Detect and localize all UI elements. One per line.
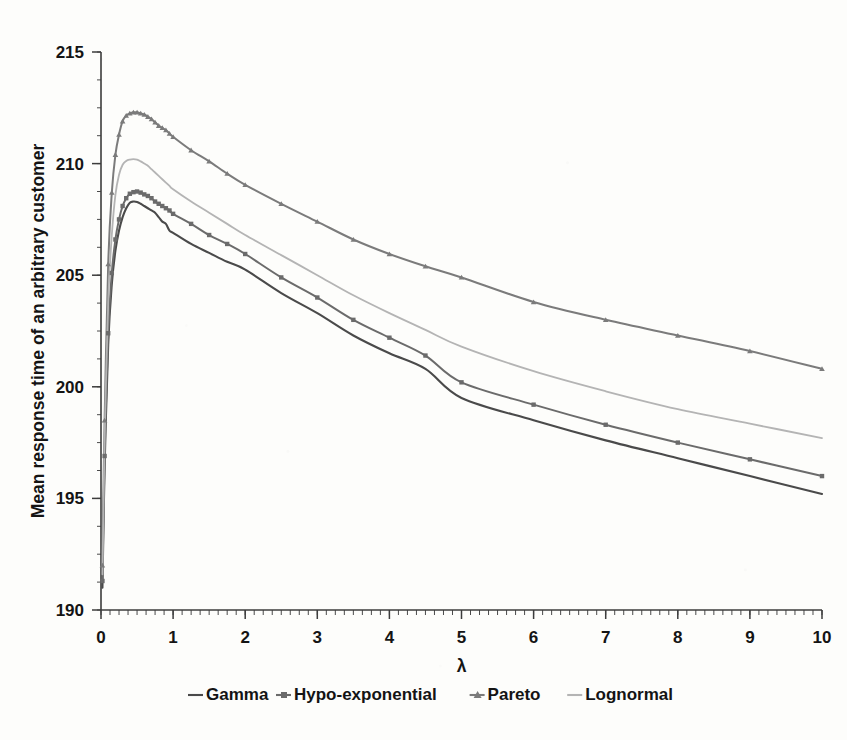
- y-axis-tick-labels: 190195200205210215: [56, 43, 84, 620]
- series-marker: [171, 212, 175, 216]
- series-marker: [100, 579, 104, 583]
- x-tick-label: 3: [313, 628, 322, 647]
- x-tick-label: 2: [240, 628, 249, 647]
- data-series-group: [102, 112, 822, 588]
- y-tick-label: 210: [56, 155, 84, 174]
- x-tick-label: 9: [745, 628, 754, 647]
- series-marker: [110, 271, 114, 275]
- legend-label: Pareto: [488, 685, 541, 704]
- x-axis-title: λ: [457, 656, 467, 676]
- series-line-gamma: [102, 202, 822, 588]
- x-tick-label: 8: [673, 628, 682, 647]
- y-tick-label: 200: [56, 378, 84, 397]
- series-marker: [243, 252, 247, 256]
- line-chart: 190195200205210215 012345678910 Mean res…: [0, 0, 847, 740]
- series-marker: [102, 454, 106, 458]
- y-tick-label: 215: [56, 43, 84, 62]
- x-tick-label: 1: [168, 628, 177, 647]
- legend-label: Lognormal: [585, 685, 673, 704]
- x-tick-label: 0: [96, 628, 105, 647]
- x-tick-label: 6: [529, 628, 538, 647]
- legend-item-lognormal[interactable]: Lognormal: [567, 685, 673, 704]
- series-marker: [459, 380, 463, 384]
- y-tick-label: 205: [56, 266, 84, 285]
- series-marker: [531, 402, 535, 406]
- y-tick-label: 195: [56, 489, 84, 508]
- series-marker: [604, 423, 608, 427]
- chart-legend: GammaHypo-exponentialParetoLognormal: [188, 685, 673, 704]
- chart-figure: 190195200205210215 012345678910 Mean res…: [0, 0, 847, 740]
- series-marker: [120, 204, 124, 208]
- series-marker: [225, 242, 229, 246]
- series-marker: [820, 474, 824, 478]
- legend-label: Gamma: [206, 685, 269, 704]
- series-marker: [387, 335, 391, 339]
- series-line-lognormal: [102, 159, 822, 574]
- series-marker: [124, 196, 128, 200]
- y-tick-label: 190: [56, 601, 84, 620]
- series-line-hypo-exponential: [102, 191, 822, 580]
- series-marker: [113, 237, 117, 241]
- x-tick-label: 5: [457, 628, 466, 647]
- series-marker: [315, 295, 319, 299]
- legend-item-hypo-exponential[interactable]: Hypo-exponential: [276, 685, 437, 704]
- series-marker: [279, 275, 283, 279]
- series-marker: [106, 331, 110, 335]
- x-tick-label: 7: [601, 628, 610, 647]
- series-marker: [117, 217, 121, 221]
- y-axis-title: Mean response time of an arbitrary custo…: [28, 144, 48, 519]
- series-marker: [207, 233, 211, 237]
- legend-marker-square: [281, 692, 287, 698]
- series-marker: [423, 353, 427, 357]
- series-marker: [109, 190, 115, 195]
- x-tick-label: 4: [385, 628, 395, 647]
- series-marker: [748, 457, 752, 461]
- series-marker: [113, 152, 119, 157]
- legend-label: Hypo-exponential: [294, 685, 437, 704]
- series-marker: [116, 132, 122, 137]
- x-tick-label: 10: [813, 628, 832, 647]
- series-marker: [676, 440, 680, 444]
- series-marker: [351, 318, 355, 322]
- series-line-pareto: [102, 112, 822, 565]
- x-axis-tick-labels: 012345678910: [96, 628, 831, 647]
- series-marker: [189, 222, 193, 226]
- legend-item-gamma[interactable]: Gamma: [188, 685, 269, 704]
- legend-item-pareto[interactable]: Pareto: [470, 685, 541, 704]
